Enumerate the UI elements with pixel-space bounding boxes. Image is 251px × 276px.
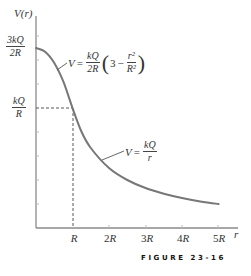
x-tick-4-unit: R: [182, 232, 189, 244]
outer-eq-equals: =: [134, 146, 140, 158]
x-tick-label-3r: 3R: [141, 232, 153, 244]
inner-eq-three: 3: [110, 57, 116, 69]
potential-figure: V(r) 3kQ 2R kQ R V = kQ 2R ( 3 − r² R² )…: [0, 0, 251, 276]
x-tick-label-2r: 2R: [104, 232, 116, 244]
x-tick-label-4r: 4R: [177, 232, 189, 244]
inner-eq-open-paren: (: [102, 52, 109, 74]
inner-eq-ratio-den: R²: [127, 63, 136, 74]
x-tick-2-unit: R: [109, 232, 116, 244]
inner-eq-coef-num: kQ: [86, 51, 100, 63]
inner-eq-lhs: V: [68, 57, 75, 69]
y-tick-label-3kq-over-2r: 3kQ 2R: [6, 35, 25, 58]
y-tick-label-kq-over-r: kQ R: [12, 96, 26, 119]
inner-eq-ratio-num: r²: [127, 51, 136, 63]
inner-eq-close-paren: ): [138, 52, 145, 74]
inner-eq-ratio-frac: r² R²: [127, 51, 136, 74]
x-axis-label: r: [234, 229, 238, 240]
inner-eq-coef-den: 2R: [87, 63, 98, 74]
y-tick-mid-num: kQ: [12, 96, 26, 108]
y-tick-top-den: 2R: [10, 47, 21, 58]
outer-eq-num: kQ: [143, 140, 157, 152]
y-axis-label: V(r): [14, 8, 32, 19]
outer-eq-lhs: V: [125, 146, 132, 158]
x-tick-label-5r: 5R: [213, 232, 225, 244]
figure-caption: FIGURE 23-16: [141, 254, 226, 262]
inner-eq-equals: =: [77, 57, 83, 69]
x-tick-5-unit: R: [218, 232, 225, 244]
x-tick-3-unit: R: [146, 232, 153, 244]
inner-equation: V = kQ 2R ( 3 − r² R² ): [68, 51, 146, 74]
outer-equation: V = kQ r: [125, 140, 158, 163]
x-tick-label-r: R: [71, 232, 78, 244]
y-tick-mid-den: R: [16, 108, 22, 119]
inner-eq-leader: [57, 63, 67, 70]
outer-eq-leader: [102, 151, 124, 160]
outer-eq-frac: kQ r: [143, 140, 157, 163]
x-tick-1-unit: R: [71, 232, 78, 244]
outer-eq-den: r: [148, 152, 152, 163]
inner-eq-coef-frac: kQ 2R: [86, 51, 100, 74]
y-tick-top-num: 3kQ: [6, 35, 25, 47]
inner-eq-minus: −: [117, 57, 123, 69]
